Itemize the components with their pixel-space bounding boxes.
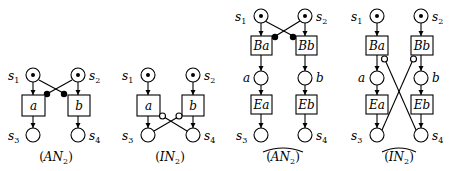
transition-a-label: a (30, 99, 37, 113)
place-s3 (26, 128, 40, 142)
transition-eb-label: Eb (413, 98, 430, 112)
inhibitor-head-ba-icon (272, 34, 278, 40)
label-s3: s3 (8, 129, 19, 145)
transition-ba-label: Ba (368, 39, 385, 53)
place-s3 (141, 128, 155, 142)
inhibitor-head-b-icon (61, 91, 67, 97)
token-icon (76, 73, 80, 77)
label-s4: s4 (89, 129, 100, 145)
place-s4 (186, 128, 200, 142)
diagram-in2-hat: s1 s2 Ba Bb a b Ea Eb s3 s4 (IN2) (351, 9, 443, 166)
token-icon (31, 73, 35, 77)
transition-ea-label: Ea (253, 98, 270, 112)
label-s2: s2 (432, 10, 443, 26)
label-s4: s4 (432, 129, 443, 145)
place-s4 (71, 128, 85, 142)
token-icon (375, 14, 379, 18)
token-icon (146, 73, 150, 77)
token-icon (419, 14, 423, 18)
token-icon (259, 14, 263, 18)
place-s3 (370, 128, 384, 142)
label-s1: s1 (8, 69, 19, 85)
transition-ba-label: Ba (253, 39, 270, 53)
inhibitor-head-a-icon (160, 113, 166, 119)
transition-eb-label: Eb (297, 98, 314, 112)
caption-an2: (AN2) (39, 150, 73, 166)
transition-b-label: b (189, 99, 197, 113)
caption-in2: (IN2) (155, 150, 185, 166)
label-s3: s3 (122, 129, 133, 145)
label-s3: s3 (236, 129, 247, 145)
inhibitor-head-bb-icon (411, 56, 417, 62)
petri-net-figure: s1 s2 a b s3 s4 (AN2) s1 s2 a (0, 0, 455, 171)
label-s1: s1 (235, 10, 246, 26)
label-s4: s4 (204, 129, 215, 145)
inhibitor-arc-s4-a (164, 117, 187, 131)
label-s1: s1 (122, 69, 133, 85)
place-a (254, 71, 268, 85)
inhibitor-arc-s1-bb (265, 21, 295, 37)
label-s2: s2 (316, 10, 327, 26)
place-s4 (414, 128, 428, 142)
label-s4: s4 (316, 129, 327, 145)
label-b: b (316, 71, 324, 85)
transition-bb-label: Bb (297, 39, 315, 53)
label-s2: s2 (89, 69, 100, 85)
label-a: a (358, 71, 365, 85)
transition-bb-label: Bb (413, 39, 431, 53)
token-icon (303, 14, 307, 18)
place-s4 (298, 128, 312, 142)
diagram-in2: s1 s2 a b s3 s4 (IN2) (122, 68, 215, 166)
label-b: b (432, 71, 440, 85)
place-s3 (254, 128, 268, 142)
label-s1: s1 (351, 10, 362, 26)
caption-an2-hat: (AN2) (266, 150, 300, 166)
label-a: a (243, 71, 250, 85)
transition-a-label: a (145, 99, 152, 113)
label-s3: s3 (351, 129, 362, 145)
place-a (370, 71, 384, 85)
label-s2: s2 (204, 69, 215, 85)
inhibitor-arc-s2-ba (274, 21, 300, 37)
transition-b-label: b (75, 99, 83, 113)
place-b (298, 71, 312, 85)
inhibitor-head-ba-icon (382, 56, 388, 62)
inhibitor-head-b-icon (176, 113, 182, 119)
transition-ea-label: Ea (368, 98, 385, 112)
diagram-an2: s1 s2 a b s3 s4 (AN2) (8, 68, 100, 166)
caption-in2-hat: (IN2) (384, 150, 414, 166)
inhibitor-arc-s3-b (154, 117, 178, 131)
diagram-an2-hat: s1 s2 Ba Bb a b Ea Eb s3 s4 (AN2) (235, 9, 327, 166)
inhibitor-head-bb-icon (290, 34, 296, 40)
token-icon (191, 73, 195, 77)
place-b (414, 71, 428, 85)
